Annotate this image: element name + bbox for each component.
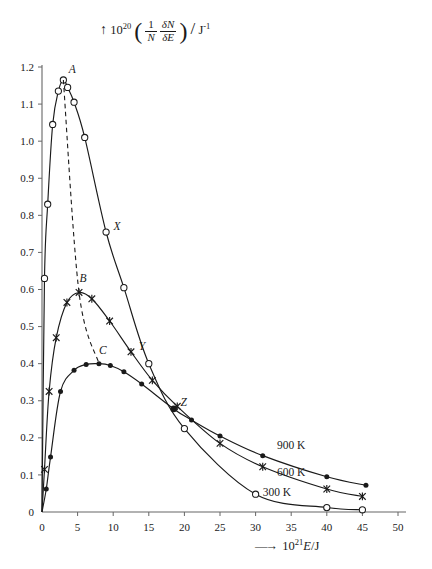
series-curve-600-k bbox=[42, 292, 362, 512]
data-point-600-k bbox=[106, 317, 113, 325]
data-point-600-k bbox=[89, 295, 96, 303]
left-paren: ( bbox=[134, 18, 142, 44]
data-point-600-k bbox=[217, 439, 224, 447]
data-point-900-k bbox=[218, 433, 223, 438]
x-axis-arrow-icon: —→ bbox=[255, 539, 276, 553]
point-label-A: A bbox=[68, 63, 77, 75]
data-point-300-k bbox=[324, 504, 330, 510]
y-axis-tick-label: 0.8 bbox=[20, 209, 34, 221]
y-axis-prefix-exponent: 20 bbox=[123, 21, 132, 31]
solidus: / bbox=[191, 19, 196, 38]
right-paren: ) bbox=[179, 18, 187, 44]
data-point-900-k bbox=[139, 382, 144, 387]
series-curve-900-k bbox=[42, 364, 366, 512]
data-point-600-k bbox=[46, 388, 53, 396]
data-point-300-k bbox=[45, 201, 51, 207]
x-axis-tick-label: 5 bbox=[75, 521, 81, 533]
data-point-300-k bbox=[359, 507, 365, 513]
fraction-dn-over-de: δN δE bbox=[160, 19, 176, 43]
point-label-C: C bbox=[99, 344, 107, 356]
data-point-900-k bbox=[121, 369, 126, 374]
data-point-600-k bbox=[64, 299, 71, 307]
y-axis-tick-label: 0.7 bbox=[20, 246, 34, 258]
maxwell-boltzmann-distribution-chart: 00.10.20.30.40.50.60.70.80.91.01.11.2051… bbox=[0, 0, 432, 569]
data-point-900-k bbox=[58, 389, 63, 394]
data-point-900-k bbox=[72, 368, 77, 373]
data-point-300-k bbox=[82, 134, 88, 140]
data-point-300-k bbox=[71, 99, 77, 105]
data-point-900-k bbox=[260, 453, 265, 458]
x-axis-tick-label: 15 bbox=[143, 521, 155, 533]
data-point-900-k bbox=[48, 455, 53, 460]
y-axis-tick-label: 0 bbox=[29, 506, 35, 518]
y-axis-tick-label: 0.6 bbox=[20, 283, 34, 295]
y-axis-arrow-icon: ↑ bbox=[100, 22, 107, 37]
x-axis-tick-label: 50 bbox=[393, 521, 405, 533]
x-axis-tick-label: 35 bbox=[286, 521, 298, 533]
data-point-900-k bbox=[84, 362, 89, 367]
point-label-Z: Z bbox=[181, 396, 188, 408]
y-axis-tick-label: 0.4 bbox=[20, 357, 34, 369]
data-point-300-k bbox=[146, 361, 152, 367]
series-curve-300-k bbox=[42, 80, 362, 512]
annotated-point-Z bbox=[170, 406, 177, 413]
y-axis-prefix: 1020 bbox=[110, 23, 131, 37]
data-point-600-k bbox=[53, 334, 60, 342]
data-point-300-k bbox=[253, 491, 259, 497]
y-axis-tick-label: 0.1 bbox=[20, 469, 34, 481]
y-axis-tick-label: 1.1 bbox=[20, 98, 34, 110]
x-axis-variable: E bbox=[303, 539, 311, 553]
series-label-300-k: 300 K bbox=[263, 486, 292, 498]
x-axis-prefix-exponent: 21 bbox=[295, 537, 304, 547]
x-axis-tick-label: 25 bbox=[215, 521, 227, 533]
data-point-300-k bbox=[103, 229, 109, 235]
x-axis-tick-label: 45 bbox=[357, 521, 369, 533]
x-axis-tick-label: 10 bbox=[108, 521, 120, 533]
point-label-Y: Y bbox=[139, 340, 147, 352]
data-point-300-k bbox=[65, 84, 71, 90]
y-axis-tick-label: 0.2 bbox=[20, 431, 34, 443]
data-point-300-k bbox=[50, 121, 56, 127]
y-axis-tick-label: 0.5 bbox=[20, 320, 34, 332]
data-point-900-k bbox=[96, 361, 101, 366]
y-axis-tick-label: 0.9 bbox=[20, 172, 34, 184]
y-axis-tick-label: 1.2 bbox=[20, 61, 34, 73]
x-axis-tick-label: 40 bbox=[321, 521, 333, 533]
x-axis-unit: J bbox=[314, 539, 319, 553]
x-axis-tick-label: 30 bbox=[250, 521, 262, 533]
y-axis-label: ↑ 1020 ( 1 N δN δE ) / J-1 bbox=[100, 18, 210, 45]
data-point-300-k bbox=[55, 88, 61, 94]
series-label-600-k: 600 K bbox=[277, 466, 306, 478]
data-point-300-k bbox=[181, 425, 187, 431]
data-point-600-k bbox=[149, 376, 156, 384]
x-axis-label: —→ 1021E/J bbox=[255, 537, 319, 554]
y-axis-tick-label: 0.3 bbox=[20, 394, 34, 406]
data-point-600-k bbox=[324, 485, 331, 493]
point-label-B: B bbox=[80, 272, 87, 284]
data-point-900-k bbox=[189, 418, 194, 423]
x-axis-prefix: 1021 bbox=[279, 539, 303, 553]
series-label-900-k: 900 K bbox=[277, 439, 306, 451]
data-point-900-k bbox=[108, 363, 113, 368]
data-point-900-k bbox=[363, 483, 368, 488]
data-point-300-k bbox=[41, 275, 47, 281]
y-axis-unit: J-1 bbox=[198, 23, 210, 37]
point-label-X: X bbox=[113, 220, 122, 232]
y-axis-tick-label: 1.0 bbox=[20, 135, 34, 147]
data-point-300-k bbox=[121, 285, 127, 291]
data-point-600-k bbox=[128, 348, 135, 356]
data-point-900-k bbox=[324, 474, 329, 479]
data-point-900-k bbox=[44, 487, 49, 492]
fraction-one-over-n: 1 N bbox=[145, 19, 156, 43]
data-point-600-k bbox=[259, 463, 266, 471]
x-axis-tick-label: 0 bbox=[39, 521, 45, 533]
x-axis-tick-label: 20 bbox=[179, 521, 191, 533]
